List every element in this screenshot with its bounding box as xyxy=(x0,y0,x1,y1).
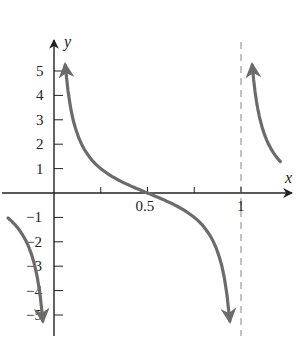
y-tick-label: 2 xyxy=(36,136,44,152)
x-tick-label: 1 xyxy=(237,198,245,214)
y-axis-label: y xyxy=(62,33,72,51)
curve-branch-right xyxy=(252,65,280,161)
y-tick-label: 1 xyxy=(36,161,44,177)
x-axis-label: x xyxy=(284,169,292,186)
y-tick-label: −1 xyxy=(26,209,42,225)
y-tick-label: 5 xyxy=(36,63,44,79)
y-tick-label: 4 xyxy=(36,87,44,103)
cotangent-graph: 0.51 54321−1−2−3−4−5 x y xyxy=(0,0,299,339)
curve-middle-upper xyxy=(65,65,147,193)
x-ticks: 0.51 xyxy=(101,187,245,214)
x-tick-label: 0.5 xyxy=(136,198,155,214)
y-tick-label: −5 xyxy=(26,307,42,323)
y-tick-label: 3 xyxy=(36,112,44,128)
curve-middle-lower xyxy=(148,193,230,321)
